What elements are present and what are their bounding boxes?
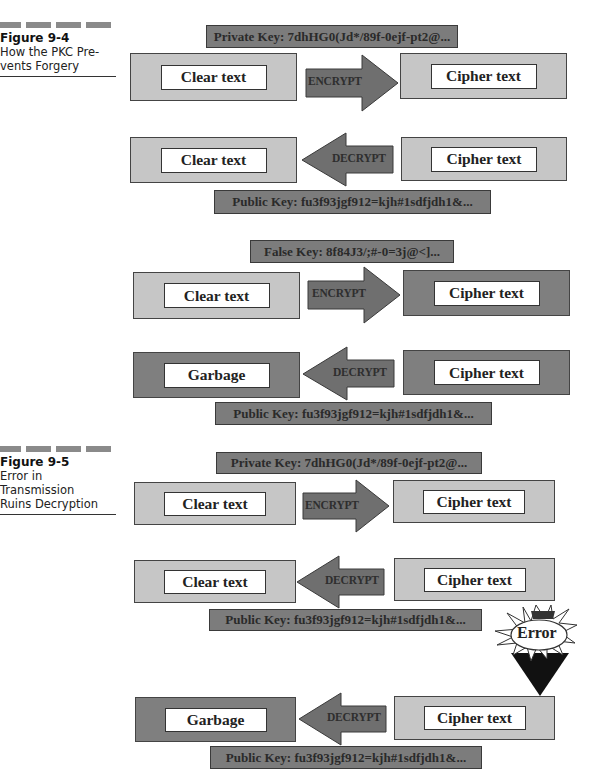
garbage-label: Garbage	[165, 708, 267, 732]
clear-text-box: Clear text	[130, 53, 297, 101]
encrypt-arrow: ENCRYPT	[308, 267, 401, 323]
decrypt-label: DECRYPT	[333, 366, 387, 378]
decrypt-arrow: DECRYPT	[299, 693, 387, 745]
caption-rule	[0, 22, 116, 28]
decrypt-label: DECRYPT	[325, 574, 379, 586]
clear-text-box: Clear text	[130, 137, 297, 183]
garbage-label: Garbage	[164, 363, 270, 388]
clear-text-label: Clear text	[164, 570, 266, 594]
clear-text-box: Clear text	[134, 482, 296, 525]
false-key-bar: False Key: 8f84J3/;#-0=3j@<]...	[250, 240, 454, 263]
cipher-text-box: Cipher text	[394, 696, 555, 740]
decrypt-arrow: DECRYPT	[297, 556, 385, 608]
encrypt-arrow: ENCRYPT	[306, 55, 399, 111]
cipher-text-box-false-key: Cipher text	[403, 350, 570, 395]
clear-text-label: Clear text	[161, 65, 267, 90]
decrypt-label: DECRYPT	[332, 152, 386, 164]
cipher-text-label: Cipher text	[431, 147, 537, 172]
public-key-bar: Public Key: fu3f93jgf912=kjh#1sdfjdh1&..…	[215, 402, 492, 425]
encrypt-label: ENCRYPT	[312, 287, 366, 299]
decrypt-arrow: DECRYPT	[302, 133, 394, 187]
cipher-text-box: Cipher text	[401, 137, 567, 181]
caption-rule	[0, 446, 116, 452]
figure-9-5-caption: Figure 9-5 Error in Transmission Ruins D…	[0, 446, 116, 515]
cipher-text-label: Cipher text	[434, 281, 540, 306]
clear-text-box: Clear text	[134, 560, 296, 603]
garbage-box: Garbage	[135, 697, 296, 742]
decrypt-arrow: DECRYPT	[303, 347, 395, 401]
encrypt-label: ENCRYPT	[305, 499, 359, 511]
error-explosion-icon	[495, 603, 577, 697]
cipher-text-label: Cipher text	[424, 706, 526, 730]
clear-text-label: Clear text	[164, 283, 270, 308]
private-key-bar: Private Key: 7dhHG0(Jd*/89f-0ejf-pt2@...	[216, 452, 482, 474]
figure-description: Error in Transmission Ruins Decryption	[0, 469, 116, 515]
public-key-bar: Public Key: fu3f93jgf912=kjh#1sdfjdh1&..…	[214, 190, 491, 214]
cipher-text-label: Cipher text	[423, 490, 525, 514]
clear-text-label: Clear text	[164, 492, 266, 516]
clear-text-label: Clear text	[161, 148, 267, 173]
public-key-bar: Public Key: fu3f93jgf912=kjh#1sdfjdh1&..…	[209, 609, 482, 631]
encrypt-label: ENCRYPT	[308, 75, 362, 87]
error-label: Error	[517, 624, 557, 642]
figure-9-4-caption: Figure 9-4 How the PKC Pre- vents Forger…	[0, 22, 116, 77]
cipher-text-box: Cipher text	[394, 558, 555, 601]
figure-number: Figure 9-4	[0, 32, 116, 45]
decrypt-label: DECRYPT	[327, 711, 381, 723]
private-key-bar: Private Key: 7dhHG0(Jd*/89f-0ejf-pt2@...	[206, 25, 458, 48]
transmission-error: Error	[495, 603, 577, 697]
figure-number: Figure 9-5	[0, 456, 116, 469]
cipher-text-box-false-key: Cipher text	[403, 270, 570, 316]
clear-text-box: Clear text	[133, 272, 300, 319]
encrypt-arrow: ENCRYPT	[303, 480, 390, 532]
cipher-text-label: Cipher text	[434, 360, 540, 385]
cipher-text-label: Cipher text	[424, 568, 526, 592]
public-key-bar: Public Key: fu3f93jgf912=kjh#1sdfjdh1&..…	[210, 746, 482, 769]
cipher-text-label: Cipher text	[431, 64, 537, 89]
garbage-box: Garbage	[133, 352, 300, 398]
cipher-text-box: Cipher text	[393, 480, 555, 523]
cipher-text-box: Cipher text	[400, 53, 567, 99]
figure-description: How the PKC Pre- vents Forgery	[0, 45, 116, 77]
